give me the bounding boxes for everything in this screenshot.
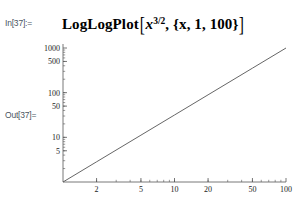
y-axis-tick-label: 1000 [44, 44, 60, 53]
open-bracket: [ [140, 13, 145, 36]
input-expression[interactable]: LogLogPlot[x3/2, {x, 1, 100}] [62, 13, 245, 36]
y-axis-tick-label: 500 [48, 57, 60, 66]
close-bracket: ] [239, 13, 244, 36]
y-axis-tick-label: 100 [48, 89, 60, 98]
function-head: LogLogPlot [62, 16, 139, 32]
loglog-plot: 25102050100510501005001000 [0, 36, 293, 203]
y-axis-tick-label: 5 [56, 147, 60, 156]
x-axis-tick-label: 100 [280, 185, 292, 194]
argument-separator: , [165, 16, 173, 32]
expression-exponent: 3/2 [153, 16, 165, 26]
x-axis-tick-label: 50 [248, 185, 256, 194]
x-axis-tick-label: 20 [204, 185, 212, 194]
mathematica-notebook: In[37]:= LogLogPlot[x3/2, {x, 1, 100}] O… [0, 0, 293, 203]
input-cell-label: In[37]:= [5, 18, 32, 28]
x-axis-tick-label: 5 [139, 185, 143, 194]
x-axis-tick-label: 2 [95, 185, 99, 194]
y-axis-tick-label: 10 [52, 133, 60, 142]
y-axis-tick-label: 50 [52, 102, 60, 111]
plot-canvas: 25102050100510501005001000 [0, 36, 293, 203]
x-axis-tick-label: 10 [171, 185, 179, 194]
plot-curve [63, 48, 286, 182]
plot-range: {x, 1, 100} [173, 16, 238, 32]
